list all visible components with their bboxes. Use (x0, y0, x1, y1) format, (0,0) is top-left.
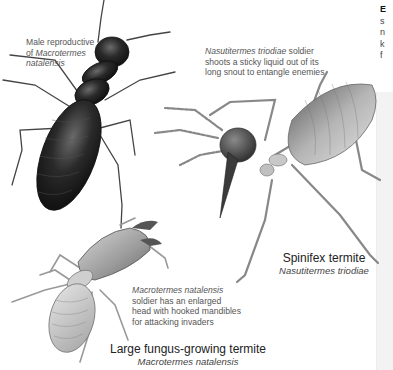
caption-line: natalensis (26, 58, 94, 69)
scientific-name: Macrotermes natalensis (88, 356, 288, 368)
caption-line: Male reproductive (26, 37, 94, 48)
caption-line: of Macrotermes (26, 48, 94, 59)
caption-line: shoots a sticky liquid out of its (205, 57, 324, 68)
common-name: Spinifex termite (268, 251, 380, 265)
caption-line: head with hooked mandibles (132, 306, 241, 317)
caption-line: Macrotermes natalensis (132, 285, 241, 296)
caption-italic-text: Macrotermes (36, 48, 86, 58)
encyclopedia-page: E s n k f (0, 0, 393, 370)
common-name: Large fungus-growing termite (88, 342, 288, 356)
male-reproductive-caption: Male reproductive of Macrotermes natalen… (26, 37, 94, 69)
caption-italic-text: natalensis (26, 58, 65, 68)
caption-line: long snout to entangle enemies (205, 67, 324, 78)
caption-italic-text: Nasutitermes triodiae (205, 46, 286, 56)
caption-line: for attacking invaders (132, 317, 241, 328)
scientific-name: Nasutitermes triodiae (268, 265, 380, 277)
caption-line: Nasutitermes triodiae soldier (205, 46, 324, 57)
spinifex-species-label: Spinifex termite Nasutitermes triodiae (268, 251, 380, 277)
caption-italic-text: Macrotermes natalensis (132, 285, 223, 295)
caption-text: soldier (286, 46, 314, 56)
caption-line: soldier has an enlarged (132, 296, 241, 307)
fungus-soldier-caption: Macrotermes natalensis soldier has an en… (132, 285, 241, 327)
spinifex-caption: Nasutitermes triodiae soldier shoots a s… (205, 46, 324, 78)
fungus-species-label: Large fungus-growing termite Macrotermes… (88, 342, 288, 368)
caption-text: of (26, 48, 36, 58)
